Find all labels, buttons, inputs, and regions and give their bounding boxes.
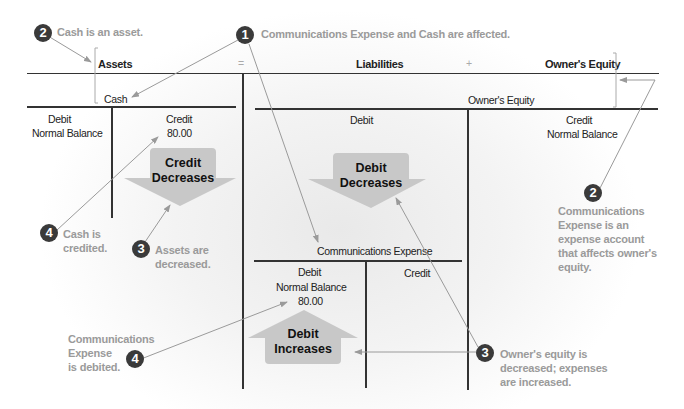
- badge-1: 1: [236, 26, 254, 44]
- badge-3-right: 3: [476, 344, 494, 362]
- annotation-4-bottom-text: Communications Expense is debited.: [68, 332, 154, 374]
- badge-4-left: 4: [40, 224, 58, 242]
- badge-2-right: 2: [584, 184, 602, 202]
- annotation-3-left-text: Assets are decreased.: [155, 243, 210, 271]
- annotation-1-text: Communications Expense and Cash are affe…: [261, 27, 510, 41]
- badge-3-left: 3: [132, 240, 150, 258]
- credit-decreases-label: Credit Decreases: [146, 156, 220, 186]
- annotation-3-right-text: Owner's equity is decreased; expenses ar…: [500, 347, 608, 389]
- assets-bracket: [95, 48, 98, 103]
- debit-decreases-label: Debit Decreases: [334, 161, 408, 191]
- debit-increases-label: Debit Increases: [266, 327, 340, 357]
- badge-2-left: 2: [34, 24, 52, 42]
- annotation-2-right-text: Communications Expense is an expense acc…: [558, 204, 657, 274]
- equity-bracket: [613, 53, 616, 107]
- annotation-2-left-text: Cash is an asset.: [57, 25, 143, 39]
- annotation-4-left-text: Cash is credited.: [63, 227, 107, 255]
